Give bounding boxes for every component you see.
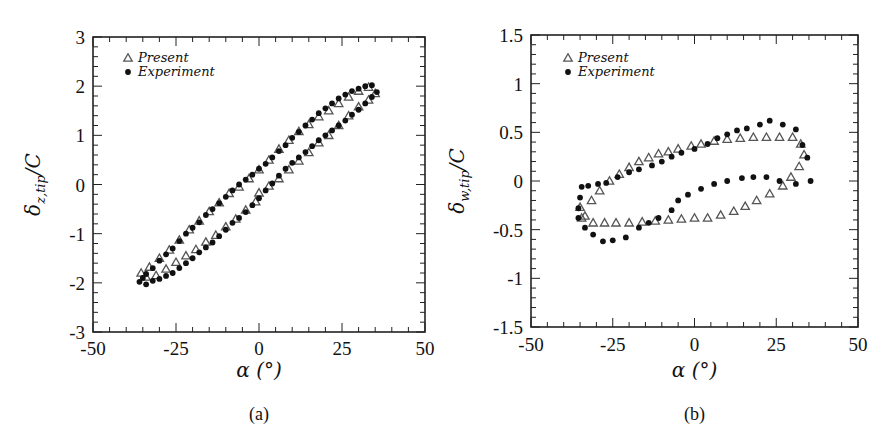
circle-marker: [626, 169, 632, 175]
circle-marker: [283, 142, 289, 148]
circle-marker: [176, 238, 182, 244]
circle-marker: [804, 155, 810, 161]
y-tick-label: 1: [76, 125, 86, 146]
x-tick-label: -25: [163, 338, 188, 359]
circle-marker: [576, 205, 582, 211]
y-tick-label: 3: [76, 27, 86, 48]
triangle-marker: [625, 219, 633, 226]
triangle-marker: [703, 214, 711, 221]
circle-marker: [210, 240, 216, 246]
circle-marker: [303, 123, 309, 129]
circle-marker: [623, 235, 629, 241]
circle-marker: [669, 207, 675, 213]
circle-marker: [362, 100, 368, 106]
circle-marker: [757, 122, 763, 128]
triangle-marker: [564, 54, 572, 61]
triangle-marker: [172, 258, 180, 265]
triangle-marker: [635, 157, 643, 164]
panel-caption: (b): [684, 404, 705, 425]
circle-marker: [679, 150, 685, 156]
y-tick-label: -1: [69, 224, 85, 245]
circle-marker: [610, 237, 616, 243]
triangle-marker: [697, 140, 705, 147]
circle-marker: [143, 281, 149, 287]
circle-marker: [163, 251, 169, 257]
circle-marker: [296, 129, 302, 135]
circle-marker: [744, 126, 750, 132]
circle-marker: [316, 137, 322, 143]
circle-marker: [615, 174, 621, 180]
circle-marker: [349, 112, 355, 118]
circle-marker: [590, 232, 596, 238]
circle-marker: [243, 209, 249, 215]
circle-marker: [656, 215, 662, 221]
circle-marker: [190, 225, 196, 231]
x-tick-label: 25: [767, 334, 786, 355]
chart-b-svg: -50-2502550-1.5-1-0.500.511.5PresentExpe…: [444, 0, 888, 446]
circle-marker: [800, 142, 806, 148]
circle-marker: [336, 96, 342, 102]
circle-marker: [323, 132, 329, 138]
circle-marker: [256, 166, 262, 172]
triangle-marker: [766, 189, 774, 196]
circle-marker: [210, 206, 216, 212]
circle-marker: [309, 143, 315, 149]
circle-marker: [276, 173, 282, 179]
circle-marker: [734, 127, 740, 133]
circle-marker: [585, 183, 591, 189]
circle-marker: [739, 175, 745, 181]
x-axis: -50-2502550: [518, 35, 867, 355]
y-tick-label: 1: [514, 74, 524, 95]
triangle-marker: [716, 211, 724, 218]
triangle-marker: [595, 187, 603, 194]
legend-label: Experiment: [137, 64, 216, 79]
triangle-marker: [730, 207, 738, 214]
circle-marker: [143, 271, 149, 277]
circle-marker: [750, 174, 756, 180]
circle-marker: [579, 184, 585, 190]
x-axis-label: α (°): [672, 358, 717, 382]
triangle-marker: [124, 54, 132, 61]
triangle-marker: [788, 133, 796, 140]
panel-a: -50-2502550-3-2-10123PresentExperimentα …: [0, 0, 444, 446]
y-tick-label: -1.5: [493, 317, 523, 338]
circle-marker: [369, 82, 375, 88]
y-tick-label: -1: [507, 268, 523, 289]
triangle-marker: [787, 173, 795, 180]
circle-marker: [659, 159, 665, 165]
circle-marker: [163, 273, 169, 279]
circle-marker: [236, 182, 242, 188]
triangle-marker: [645, 153, 653, 160]
circle-marker: [356, 86, 362, 92]
triangle-marker: [736, 134, 744, 141]
circle-marker: [283, 166, 289, 172]
circle-marker: [289, 160, 295, 166]
circle-marker: [196, 249, 202, 255]
circle-marker: [203, 212, 209, 218]
circle-marker: [767, 118, 773, 124]
triangle-marker: [162, 265, 170, 272]
circle-marker: [724, 178, 730, 184]
y-tick-label: 1.5: [499, 25, 523, 46]
triangle-marker: [587, 196, 595, 203]
y-tick-label: 2: [76, 76, 86, 97]
circle-marker: [170, 246, 176, 252]
triangle-marker: [182, 252, 190, 259]
circle-marker: [303, 149, 309, 155]
plot-frame: [93, 37, 425, 332]
circle-marker: [692, 146, 698, 152]
triangle-marker: [677, 215, 685, 222]
circle-marker: [203, 245, 209, 251]
circle-marker: [636, 166, 642, 172]
y-axis-label: δw,tip/C: [445, 148, 472, 214]
panel-caption: (a): [249, 404, 269, 425]
circle-marker: [269, 181, 275, 187]
circle-marker: [669, 154, 675, 160]
circle-marker: [777, 178, 783, 184]
circle-marker: [249, 172, 255, 178]
triangle-marker: [654, 150, 662, 157]
x-tick-label: 25: [333, 338, 352, 359]
circle-marker: [323, 105, 329, 111]
circle-marker: [176, 265, 182, 271]
circle-marker: [793, 181, 799, 187]
